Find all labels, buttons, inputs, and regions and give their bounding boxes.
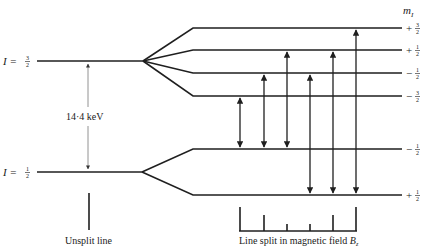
svg-text:+: + xyxy=(406,44,412,56)
svg-text:2: 2 xyxy=(416,29,419,35)
label-upper-plus-3-2: + 3 2 xyxy=(406,22,420,35)
lower-level-I-1-2: I = 1 2 xyxy=(2,149,402,195)
svg-text:−: − xyxy=(406,143,412,155)
upper-sublevel-minus-1-2 xyxy=(143,61,402,73)
svg-text:−: − xyxy=(406,67,412,79)
lower-level-label-num: 1 xyxy=(26,166,29,172)
label-lower-minus-1-2: − 1 2 xyxy=(406,143,420,156)
split-spectrum: Line split in magnetic field Bz xyxy=(239,207,359,247)
upper-level-I-3-2: I = 3 2 xyxy=(2,28,402,96)
sublevel-labels: + 3 2 + 1 2 − 1 2 − 3 2 − 1 2 xyxy=(406,22,420,202)
upper-level-label-den: 2 xyxy=(26,62,29,68)
label-upper-plus-1-2: + 1 2 xyxy=(406,44,420,57)
upper-level-label: I = xyxy=(2,55,17,67)
svg-text:3: 3 xyxy=(416,22,419,28)
split-caption: Line split in magnetic field Bz xyxy=(239,235,359,247)
unsplit-spectrum: Unsplit line xyxy=(65,193,113,246)
lower-level-label-den: 2 xyxy=(26,173,29,179)
svg-text:2: 2 xyxy=(416,196,419,202)
svg-text:+: + xyxy=(406,189,412,201)
upper-sublevel-minus-3-2 xyxy=(143,61,402,96)
column-header-mI: mI xyxy=(403,4,414,19)
transition-arrows xyxy=(240,30,356,193)
unsplit-caption: Unsplit line xyxy=(65,235,113,246)
svg-text:2: 2 xyxy=(416,97,419,103)
lower-level-label: I = xyxy=(2,166,17,178)
svg-text:2: 2 xyxy=(416,74,419,80)
svg-text:1: 1 xyxy=(416,44,419,50)
svg-text:+: + xyxy=(406,22,412,34)
upper-level-label-num: 3 xyxy=(26,55,29,61)
zeeman-splitting-diagram: mI I = 3 2 I = 1 2 + 3 2 + 1 xyxy=(0,0,429,249)
svg-text:1: 1 xyxy=(416,189,419,195)
svg-text:2: 2 xyxy=(416,51,419,57)
energy-gap-arrow: 14·4 keV xyxy=(66,64,104,169)
svg-text:1: 1 xyxy=(416,143,419,149)
upper-sublevel-plus-3-2 xyxy=(143,28,402,61)
energy-gap-label: 14·4 keV xyxy=(66,111,104,122)
upper-sublevel-plus-1-2 xyxy=(143,50,402,61)
svg-text:−: − xyxy=(406,90,412,102)
lower-sublevel-minus-1-2 xyxy=(142,149,402,172)
svg-text:2: 2 xyxy=(416,150,419,156)
label-upper-minus-1-2: − 1 2 xyxy=(406,67,420,80)
label-lower-plus-1-2: + 1 2 xyxy=(406,189,420,202)
svg-text:1: 1 xyxy=(416,67,419,73)
lower-sublevel-plus-1-2 xyxy=(142,172,402,195)
label-upper-minus-3-2: − 3 2 xyxy=(406,90,420,103)
svg-text:3: 3 xyxy=(416,90,419,96)
